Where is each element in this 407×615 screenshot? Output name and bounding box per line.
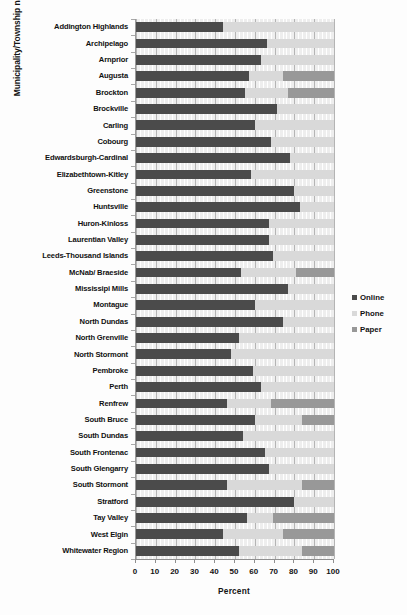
category-label: Stratford	[22, 493, 132, 509]
bar-segment-online	[136, 22, 223, 32]
bar-row	[136, 412, 334, 428]
bar-segment-online	[136, 186, 294, 196]
bar-segment-online	[136, 464, 269, 474]
bar-row	[136, 35, 334, 51]
y-tick	[131, 150, 135, 151]
plot-area	[135, 19, 334, 559]
legend-label: Paper	[360, 325, 382, 334]
bar-segment-paper	[288, 88, 334, 98]
bar-segment-phone	[267, 39, 334, 49]
bar-segment-phone	[231, 349, 334, 359]
bar-segment-online	[136, 366, 253, 376]
legend-item-online[interactable]: Online	[352, 289, 406, 305]
y-tick	[131, 543, 135, 544]
bar-segment-phone	[300, 202, 334, 212]
y-tick	[131, 444, 135, 445]
y-tick	[131, 68, 135, 69]
bar-segment-phone	[249, 71, 283, 81]
chart-legend: OnlinePhonePaper	[352, 289, 406, 337]
bar-segment-online	[136, 104, 277, 114]
x-tick	[313, 559, 314, 563]
gridline	[334, 19, 335, 559]
bar-segment-online	[136, 546, 239, 556]
bar-row	[136, 461, 334, 477]
y-tick	[131, 559, 135, 560]
y-tick	[131, 183, 135, 184]
bar-track	[136, 415, 334, 425]
bar-segment-online	[136, 513, 247, 523]
category-label: Brockville	[22, 101, 132, 117]
bar-track	[136, 480, 334, 490]
bar-row	[136, 428, 334, 444]
bar-track	[136, 22, 334, 32]
category-label: Perth	[22, 379, 132, 395]
bar-segment-online	[136, 382, 261, 392]
bar-track	[136, 317, 334, 327]
bar-segment-phone	[239, 546, 302, 556]
bar-segment-online	[136, 399, 227, 409]
bar-segment-phone	[269, 464, 334, 474]
bar-track	[136, 399, 334, 409]
bar-track	[136, 153, 334, 163]
bar-row	[136, 84, 334, 100]
x-axis-title: Percent	[135, 586, 333, 596]
bar-segment-phone	[269, 219, 334, 229]
category-label: Montague	[22, 297, 132, 313]
bar-row	[136, 379, 334, 395]
y-tick	[131, 412, 135, 413]
x-tick	[194, 559, 195, 563]
bar-segment-online	[136, 219, 269, 229]
y-tick	[131, 52, 135, 53]
x-tick	[155, 559, 156, 563]
bar-row	[136, 101, 334, 117]
bar-row	[136, 199, 334, 215]
legend-item-phone[interactable]: Phone	[352, 305, 406, 321]
bar-track	[136, 251, 334, 261]
bar-segment-paper	[302, 480, 334, 490]
legend-item-paper[interactable]: Paper	[352, 321, 406, 337]
bar-row	[136, 493, 334, 509]
bar-track	[136, 349, 334, 359]
bar-segment-online	[136, 300, 255, 310]
y-tick	[131, 494, 135, 495]
y-tick	[131, 281, 135, 282]
x-tick	[214, 559, 215, 563]
category-label: Huntsville	[22, 199, 132, 215]
bar-track	[136, 39, 334, 49]
bar-segment-online	[136, 88, 245, 98]
bar-segment-online	[136, 235, 269, 245]
bar-track	[136, 137, 334, 147]
bar-segment-online	[136, 431, 243, 441]
bar-track	[136, 186, 334, 196]
category-label: South Stormont	[22, 477, 132, 493]
category-label: Addington Highlands	[22, 19, 132, 35]
bar-row	[136, 19, 334, 35]
category-label: Elizabethtown-Kitley	[22, 166, 132, 182]
y-tick	[131, 510, 135, 511]
legend-swatch-icon	[352, 327, 357, 332]
bar-segment-paper	[296, 268, 334, 278]
bar-segment-online	[136, 39, 267, 49]
bar-row	[136, 363, 334, 379]
bar-segment-paper	[302, 546, 334, 556]
category-label: Tay Valley	[22, 510, 132, 526]
category-label: Mississipi Mills	[22, 281, 132, 297]
bar-track	[136, 546, 334, 556]
bar-segment-phone	[294, 497, 334, 507]
bar-track	[136, 88, 334, 98]
bar-segment-phone	[265, 448, 334, 458]
x-tick-label: 100	[320, 567, 346, 576]
bar-segment-online	[136, 137, 271, 147]
category-label: Carling	[22, 117, 132, 133]
bar-track	[136, 104, 334, 114]
bar-segment-online	[136, 317, 283, 327]
bar-track	[136, 448, 334, 458]
y-tick	[131, 363, 135, 364]
bar-segment-online	[136, 153, 290, 163]
category-label: North Dundas	[22, 313, 132, 329]
bar-segment-online	[136, 268, 241, 278]
bar-segment-phone	[294, 186, 334, 196]
bar-row	[136, 134, 334, 150]
y-tick	[131, 117, 135, 118]
bar-row	[136, 346, 334, 362]
